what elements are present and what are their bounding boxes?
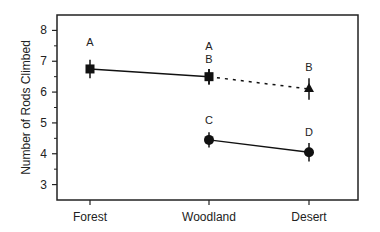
significance-letter: B — [305, 61, 312, 73]
circle-marker — [304, 147, 314, 157]
triangle-marker — [304, 83, 314, 92]
square-marker — [86, 64, 95, 73]
series-line — [209, 140, 309, 152]
y-axis-title: Number of Rods Climbed — [19, 40, 33, 175]
x-tick-label: Woodland — [182, 210, 236, 224]
series-line — [90, 69, 209, 77]
circle-marker — [204, 135, 214, 145]
series-line — [209, 77, 309, 89]
significance-letter: B — [205, 53, 212, 65]
significance-letter: D — [305, 126, 313, 138]
y-tick-label: 4 — [40, 147, 47, 161]
y-tick-label: 6 — [40, 85, 47, 99]
significance-letter: A — [86, 36, 94, 48]
y-tick-label: 8 — [40, 23, 47, 37]
x-tick-label: Desert — [291, 210, 327, 224]
y-tick-label: 7 — [40, 54, 47, 68]
significance-letter: C — [205, 114, 213, 126]
x-tick-label: Forest — [73, 210, 108, 224]
chart: 345678ForestWoodlandDesertNumber of Rods… — [0, 0, 380, 232]
y-tick-label: 3 — [40, 178, 47, 192]
y-tick-label: 5 — [40, 116, 47, 130]
significance-letter: A — [205, 40, 213, 52]
